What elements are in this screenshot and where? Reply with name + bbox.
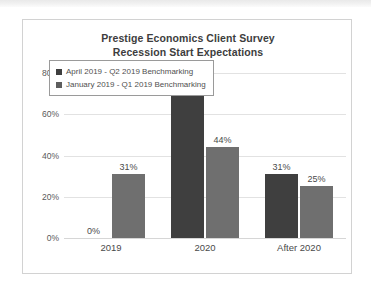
plot-area: 0%20%40%60%80% 0%31%69%44%31%25% — [64, 73, 346, 238]
bar[interactable]: 69% — [171, 96, 204, 238]
bar[interactable]: 25% — [300, 186, 333, 238]
bar-value-label: 31% — [119, 162, 137, 172]
legend-item-label: January 2019 - Q1 2019 Benchmarking — [66, 78, 206, 91]
scan-artifact-band — [0, 0, 371, 7]
chart-title-line-1: Prestige Economics Client Survey — [101, 32, 275, 44]
x-axis-category-labels: 20192020After 2020 — [64, 242, 346, 258]
chart-title: Prestige Economics Client Survey Recessi… — [23, 31, 353, 59]
gridline — [64, 238, 346, 239]
bar[interactable]: 31% — [265, 174, 298, 238]
bar-value-label: 0% — [87, 226, 100, 236]
legend-item-label: April 2019 - Q2 2019 Benchmarking — [66, 65, 193, 78]
y-axis-tick-label: 20% — [42, 192, 59, 202]
bar-value-label: 31% — [272, 162, 290, 172]
chart-legend: April 2019 - Q2 2019 Benchmarking Januar… — [49, 60, 214, 96]
chart-container: Prestige Economics Client Survey Recessi… — [22, 19, 352, 274]
legend-item[interactable]: April 2019 - Q2 2019 Benchmarking — [56, 65, 206, 78]
y-axis-tick-label: 0% — [47, 233, 59, 243]
x-axis-category-label: 2019 — [100, 242, 121, 253]
y-axis-tick-label: 40% — [42, 151, 59, 161]
bar[interactable]: 31% — [112, 174, 145, 238]
bar-value-label: 25% — [307, 174, 325, 184]
bar[interactable]: 44% — [206, 147, 239, 238]
chart-title-line-2: Recession Start Expectations — [23, 45, 353, 59]
y-axis-tick-label: 60% — [42, 109, 59, 119]
bar-value-label: 44% — [213, 135, 231, 145]
x-axis-category-label: 2020 — [194, 242, 215, 253]
legend-swatch-icon — [56, 69, 62, 75]
bar-series-group: 0%31%69%44%31%25% — [64, 73, 346, 238]
legend-item[interactable]: January 2019 - Q1 2019 Benchmarking — [56, 78, 206, 91]
legend-swatch-icon — [56, 82, 62, 88]
x-axis-category-label: After 2020 — [277, 242, 321, 253]
